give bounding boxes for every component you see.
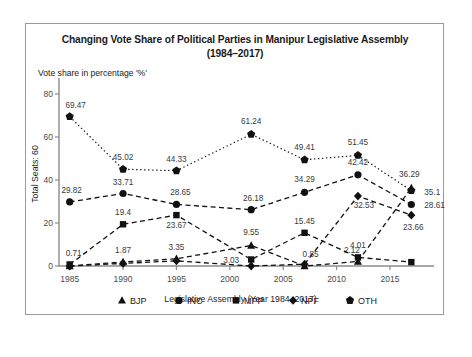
data-label: 69.47 bbox=[65, 101, 86, 110]
y-axis-tick-label: 40 bbox=[44, 175, 54, 185]
marker-square bbox=[408, 259, 414, 265]
data-label: 34.29 bbox=[294, 175, 315, 184]
chart-card: Changing Vote Share of Political Parties… bbox=[25, 23, 444, 315]
data-label: 3.35 bbox=[168, 243, 184, 252]
marker-triangle bbox=[247, 241, 255, 248]
marker-square bbox=[120, 221, 126, 227]
data-label: 1.87 bbox=[115, 246, 131, 255]
legend-label-npf: NPF bbox=[301, 296, 320, 306]
data-label: 35.1 bbox=[424, 188, 440, 197]
data-label: 49.41 bbox=[294, 143, 315, 152]
marker-circle bbox=[175, 297, 182, 304]
marker-pentagon bbox=[300, 155, 308, 163]
x-axis-tick-label: 2005 bbox=[274, 274, 293, 284]
data-label: 9.55 bbox=[243, 228, 259, 237]
data-label: 28.61 bbox=[424, 201, 445, 210]
marker-square bbox=[355, 254, 361, 260]
series-mpp: 0.7119.423.673.0315.454.01 bbox=[66, 208, 415, 267]
data-label: 28.65 bbox=[170, 188, 191, 197]
marker-pentagon bbox=[66, 112, 74, 120]
data-label: 36.29 bbox=[399, 170, 420, 179]
y-axis-title: Total Seats: 60 bbox=[30, 145, 40, 203]
marker-diamond bbox=[354, 192, 362, 201]
data-label: 23.67 bbox=[166, 221, 187, 230]
marker-circle bbox=[408, 201, 415, 208]
marker-pentagon bbox=[354, 151, 362, 159]
y-axis-tick-label: 0 bbox=[48, 261, 53, 271]
marker-circle bbox=[248, 206, 255, 213]
marker-pentagon bbox=[119, 165, 127, 173]
marker-square bbox=[301, 230, 307, 236]
marker-circle bbox=[66, 198, 73, 205]
marker-triangle bbox=[118, 296, 126, 303]
data-label: 32.53 bbox=[354, 201, 375, 210]
data-label: 44.33 bbox=[166, 155, 187, 164]
y-axis-tick-label: 60 bbox=[44, 132, 54, 142]
data-label: 23.66 bbox=[403, 223, 424, 232]
legend-label-oth: OTH bbox=[358, 296, 377, 306]
data-label: 4.01 bbox=[350, 241, 366, 250]
x-axis-tick-label: 1990 bbox=[114, 274, 133, 284]
data-label: 15.45 bbox=[294, 217, 315, 226]
marker-circle bbox=[119, 190, 126, 197]
marker-square bbox=[173, 212, 179, 218]
series-inc: 29.8233.7128.6526.1834.2942.4228.61 bbox=[61, 158, 445, 214]
legend-label-inc: INC bbox=[187, 296, 203, 306]
marker-diamond bbox=[407, 211, 415, 220]
data-label: 45.02 bbox=[113, 153, 134, 162]
marker-circle bbox=[173, 201, 180, 208]
marker-pentagon bbox=[247, 130, 255, 138]
data-label: 19.4 bbox=[115, 208, 131, 217]
x-axis-tick-label: 2010 bbox=[327, 274, 346, 284]
chart-canvas: 0204060801985199019952000200520102015Leg… bbox=[26, 24, 445, 316]
marker-pentagon bbox=[172, 166, 180, 174]
y-axis-tick-label: 80 bbox=[44, 89, 54, 99]
chart-legend: BJPINCMPPNPFOTH bbox=[118, 296, 377, 306]
marker-pentagon bbox=[407, 186, 415, 194]
data-label: 61.24 bbox=[241, 117, 262, 126]
data-label: 0.71 bbox=[66, 249, 82, 258]
x-axis-tick-label: 2015 bbox=[381, 274, 400, 284]
data-label: 29.82 bbox=[61, 186, 82, 195]
plot-area: 0204060801985199019952000200520102015Leg… bbox=[26, 24, 445, 316]
legend-label-mpp: MPP bbox=[244, 296, 264, 306]
x-axis-tick-label: 1995 bbox=[167, 274, 186, 284]
marker-circle bbox=[354, 171, 361, 178]
data-label: 0.85 bbox=[303, 250, 319, 259]
legend-label-bjp: BJP bbox=[130, 296, 147, 306]
data-label: 51.45 bbox=[348, 138, 369, 147]
x-axis-tick-label: 1985 bbox=[60, 274, 79, 284]
marker-pentagon bbox=[346, 296, 354, 304]
data-label: 33.71 bbox=[113, 178, 134, 187]
marker-circle bbox=[301, 189, 308, 196]
data-label: 42.42 bbox=[348, 158, 369, 167]
x-axis-tick-label: 2000 bbox=[220, 274, 239, 284]
data-label: 26.18 bbox=[243, 194, 264, 203]
marker-square bbox=[233, 297, 239, 303]
y-axis-tick-label: 20 bbox=[44, 218, 54, 228]
marker-diamond bbox=[247, 262, 255, 271]
